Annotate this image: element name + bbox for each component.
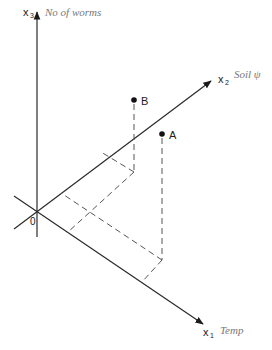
point-a-projections xyxy=(61,138,162,282)
x1-annotation: Temp xyxy=(220,324,244,336)
x2-axis xyxy=(14,81,211,229)
coordinate-diagram: B A 0 x 3 No of worms x 2 Soil ψ x 1 Tem… xyxy=(0,0,272,350)
x1-axis xyxy=(14,196,203,324)
x1-axis-label: x 1 Temp xyxy=(203,324,244,339)
point-a-label: A xyxy=(169,129,177,141)
origin-label: 0 xyxy=(30,216,36,227)
point-b-label: B xyxy=(141,95,148,107)
svg-text:1: 1 xyxy=(210,332,214,339)
svg-text:x: x xyxy=(23,6,29,18)
svg-text:x: x xyxy=(203,326,209,338)
point-b-marker xyxy=(131,97,137,103)
svg-text:x: x xyxy=(218,73,224,85)
x3-annotation: No of worms xyxy=(44,6,101,18)
point-a-marker xyxy=(159,131,165,137)
point-b-projections xyxy=(68,104,134,232)
x3-axis-label: x 3 No of worms xyxy=(23,6,101,19)
svg-text:3: 3 xyxy=(30,12,34,19)
x2-axis-label: x 2 Soil ψ xyxy=(218,68,261,86)
x2-annotation: Soil ψ xyxy=(234,68,261,80)
svg-text:2: 2 xyxy=(225,79,229,86)
